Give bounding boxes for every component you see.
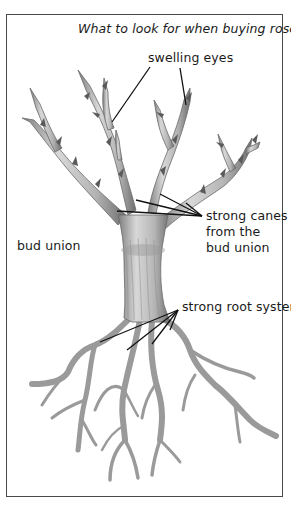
- label-strong-canes-3: bud union: [206, 240, 270, 255]
- label-swelling-eyes: swelling eyes: [148, 50, 233, 65]
- label-strong-canes-2: from the: [206, 224, 260, 239]
- label-strong-canes-1: strong canes: [206, 208, 288, 223]
- figure-title: What to look for when buying roses: [78, 21, 291, 36]
- label-bud-union: bud union: [17, 238, 81, 253]
- label-strong-root-system: strong root system: [182, 299, 291, 314]
- canes: [22, 70, 260, 228]
- bud-union-knot: [121, 244, 165, 256]
- trunk: [118, 215, 170, 322]
